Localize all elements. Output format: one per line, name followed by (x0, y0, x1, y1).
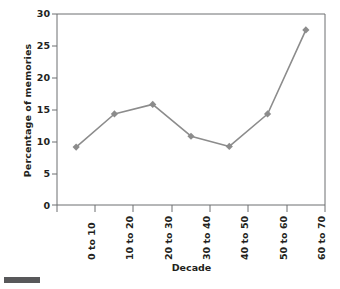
x-tick-label: 0 to 10 (86, 212, 97, 260)
line-chart-figure: Percentage of memories 30 25 20 15 10 5 … (0, 0, 340, 289)
x-tick-label: 40 to 50 (239, 212, 250, 260)
x-axis-title: Decade (57, 262, 326, 273)
page-corner-mark (4, 277, 40, 283)
x-tick-label: 10 to 20 (124, 212, 135, 260)
x-axis-tick-labels: 0 to 10 10 to 20 20 to 30 30 to 40 40 to… (0, 0, 340, 289)
x-tick-label: 60 to 70 (316, 212, 327, 260)
x-tick-label: 20 to 30 (163, 212, 174, 260)
x-tick-label: 30 to 40 (201, 212, 212, 260)
x-tick-label: 50 to 60 (278, 212, 289, 260)
